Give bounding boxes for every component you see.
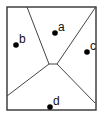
voronoi-edge — [7, 64, 49, 96]
site-dot — [84, 49, 90, 55]
voronoi-edges — [7, 7, 95, 103]
site-dot — [52, 30, 58, 36]
diagram-frame — [7, 7, 96, 110]
site-b: b — [13, 32, 26, 48]
voronoi-edge — [27, 7, 49, 64]
site-label: a — [58, 20, 65, 34]
voronoi-edge — [57, 8, 95, 64]
site-d: d — [47, 94, 59, 110]
voronoi-diagram: abcd — [0, 0, 105, 115]
site-label: d — [53, 94, 60, 108]
site-dot — [47, 104, 53, 110]
site-a: a — [52, 20, 65, 36]
voronoi-edge — [57, 64, 95, 103]
site-label: b — [19, 32, 26, 46]
site-dot — [13, 42, 19, 48]
voronoi-sites: abcd — [13, 20, 96, 110]
site-label: c — [90, 39, 96, 53]
site-c: c — [84, 39, 96, 55]
